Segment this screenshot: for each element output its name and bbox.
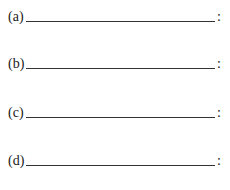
answer-blank-c[interactable] xyxy=(26,117,215,118)
item-label: (a) xyxy=(8,7,24,27)
answer-blank-d[interactable] xyxy=(26,165,215,166)
list-item-c: (c) : xyxy=(8,103,230,123)
item-label: (d) xyxy=(8,151,24,171)
item-colon: : xyxy=(217,54,221,74)
item-label: (c) xyxy=(8,103,24,123)
item-colon: : xyxy=(217,151,221,171)
list-item-b: (b) : xyxy=(8,54,230,74)
item-colon: : xyxy=(217,103,221,123)
list-item-a: (a) : xyxy=(8,7,230,27)
item-colon: : xyxy=(217,7,221,27)
item-label: (b) xyxy=(8,54,24,74)
answer-blank-b[interactable] xyxy=(26,68,215,69)
list-item-d: (d) : xyxy=(8,151,230,171)
answer-blank-a[interactable] xyxy=(26,21,215,22)
